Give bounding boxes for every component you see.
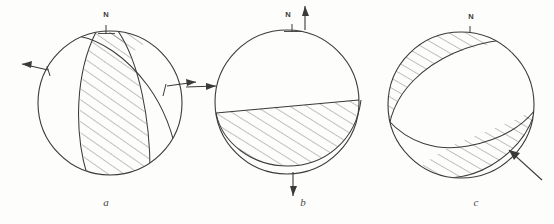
panel-b-shaded-region xyxy=(216,100,362,166)
panel-a xyxy=(22,25,196,179)
panel-a-north-label: N xyxy=(100,10,112,19)
panel-a-shaded-lune xyxy=(80,32,150,178)
panel-a-right-arrow xyxy=(163,79,196,96)
panel-b-north-label: N xyxy=(282,10,294,19)
panel-b-top-arrow xyxy=(302,6,309,30)
panel-a-left-arrow xyxy=(22,61,50,76)
focal-mechanism-figure xyxy=(0,0,554,224)
panel-b xyxy=(186,6,362,196)
panel-c xyxy=(388,26,542,180)
panel-c-north-label: N xyxy=(465,12,477,21)
panel-c-shaded-region-1 xyxy=(388,32,500,140)
panel-c-label: c xyxy=(466,196,486,208)
panel-b-label: b xyxy=(293,196,313,208)
panel-c-lower-right-arrow xyxy=(509,150,542,180)
panel-c-shaded-region-2 xyxy=(418,110,534,177)
panel-a-label: a xyxy=(96,196,116,208)
panel-a-shaded-regions xyxy=(80,32,160,178)
panel-b-bottom-arrow xyxy=(290,172,297,196)
panel-b-shaded-regions xyxy=(216,100,362,166)
